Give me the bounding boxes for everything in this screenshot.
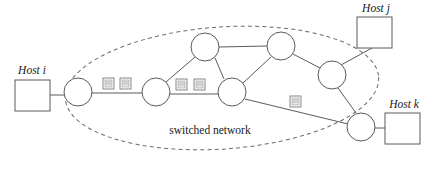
host-label-host-j: Host j: [361, 2, 390, 15]
link-s5-s6: [293, 54, 320, 68]
switch-node-s2: [142, 78, 170, 106]
switch-node-s7: [347, 113, 375, 141]
host-label-host-i: Host i: [17, 64, 46, 76]
packet-icon: [194, 79, 205, 90]
cloud-label: switched network: [169, 124, 251, 136]
switch-node-s4: [218, 78, 246, 106]
switch-node-s6: [318, 61, 346, 89]
packet-icon: [103, 78, 114, 89]
host-box-host-k: [385, 113, 420, 144]
switch-node-s3: [191, 33, 219, 61]
host-label-host-k: Host k: [388, 98, 420, 110]
diagram-canvas: Host i Host j Host k switched network: [0, 0, 437, 177]
link-s5-s4: [243, 57, 271, 83]
network-diagram: Host i Host j Host k switched network: [0, 0, 437, 177]
host-box-host-j: [357, 17, 392, 48]
link-s6-s7: [338, 88, 356, 113]
link-s3-s4: [215, 58, 224, 79]
packet-icon: [176, 79, 187, 90]
link-s2-s3: [166, 57, 195, 82]
switch-node-s5: [267, 32, 295, 60]
packet-icon: [290, 96, 301, 107]
link-s3-s5: [219, 46, 267, 47]
switch-node-s1: [64, 78, 92, 106]
host-box-host-i: [15, 80, 50, 111]
packet-icon: [120, 78, 131, 89]
